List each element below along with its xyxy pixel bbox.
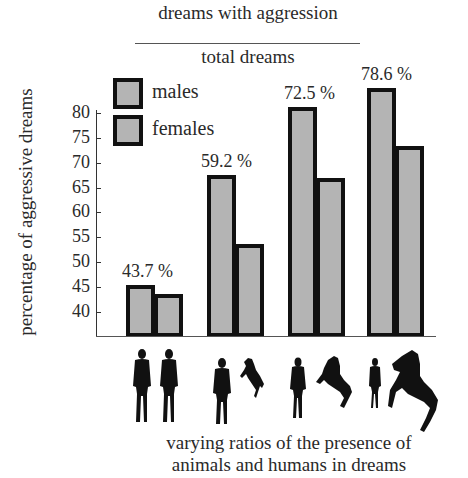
- y-tick: [96, 163, 101, 164]
- legend-swatch-females: [113, 115, 143, 146]
- human-horse-group-4: [366, 350, 442, 440]
- x-axis-label: varying ratios of the presence of animal…: [110, 432, 468, 476]
- y-tick-label: 75: [56, 128, 90, 146]
- human-silhouette-icon: [160, 349, 178, 422]
- y-axis-label: percentage of aggressive dreams: [15, 88, 37, 335]
- bar-males: [126, 285, 155, 337]
- human-silhouette-icon: [213, 358, 231, 424]
- x-axis-label-line-1: varying ratios of the presence of: [110, 432, 468, 454]
- group-percentage-label: 78.6 %: [361, 64, 412, 85]
- legend-label-males: males: [152, 80, 199, 103]
- y-axis-line: [96, 110, 97, 336]
- y-tick-label: 65: [56, 178, 90, 196]
- y-tick-label: 55: [56, 227, 90, 245]
- horse-silhouette-icon: [388, 350, 438, 432]
- bar-males: [367, 88, 396, 337]
- horse-silhouette-icon: [316, 356, 352, 408]
- bar-males: [288, 107, 317, 337]
- y-tick-label: 45: [56, 277, 90, 295]
- y-tick: [96, 212, 101, 213]
- human-silhouette-icon: [133, 349, 151, 422]
- y-tick: [96, 312, 101, 313]
- fraction-line: [135, 43, 360, 44]
- human-horse-group-3: [288, 356, 354, 436]
- y-tick-label: 70: [56, 153, 90, 171]
- human-horse-group-2: [210, 356, 270, 428]
- human-silhouette-icon: [369, 358, 381, 408]
- y-tick-label: 80: [56, 103, 90, 121]
- chart-title-numerator: dreams with aggression: [130, 2, 366, 24]
- y-tick: [96, 138, 101, 139]
- human-silhouette-icon-pair: [130, 346, 190, 426]
- group-percentage-label: 59.2 %: [201, 151, 252, 172]
- group-percentage-label: 43.7 %: [122, 261, 173, 282]
- y-tick: [96, 262, 101, 263]
- group-percentage-label: 72.5 %: [284, 83, 335, 104]
- bar-females: [154, 294, 183, 337]
- chart-title-denominator: total dreams: [130, 46, 366, 68]
- y-tick-label: 40: [56, 302, 90, 320]
- y-tick-label: 60: [56, 202, 90, 220]
- horse-silhouette-icon: [240, 358, 264, 398]
- legend-swatch-males: [113, 78, 143, 109]
- x-axis-baseline: [96, 336, 436, 337]
- legend-label-females: females: [152, 117, 214, 140]
- human-silhouette-icon: [290, 358, 306, 419]
- bar-females: [395, 146, 424, 337]
- y-tick: [96, 113, 101, 114]
- y-tick: [96, 237, 101, 238]
- x-axis-label-line-2: animals and humans in dreams: [110, 454, 468, 476]
- bar-males: [207, 175, 236, 337]
- bar-females: [316, 178, 345, 337]
- y-tick: [96, 188, 101, 189]
- y-tick: [96, 287, 101, 288]
- y-tick-label: 50: [56, 252, 90, 270]
- bar-females: [235, 244, 264, 337]
